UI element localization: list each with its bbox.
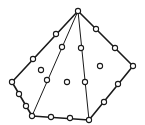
vertex-node	[86, 117, 91, 122]
vertex-node	[75, 8, 80, 13]
boundary-node	[112, 45, 117, 50]
boundary-node	[67, 115, 72, 120]
interior-node	[64, 79, 69, 84]
boundary-node	[48, 114, 53, 119]
outer-boundary	[12, 11, 133, 120]
inner-line-node	[82, 79, 87, 84]
vertex-node	[9, 79, 14, 84]
mesh-diagram	[0, 0, 145, 125]
vertex-node	[29, 113, 34, 118]
inner-line-node	[59, 44, 64, 49]
inner-line-node	[78, 45, 83, 50]
boundary-node	[16, 91, 21, 96]
boundary-node	[93, 26, 98, 31]
inner-divider-line-2	[78, 11, 89, 120]
inner-divider-line-1	[32, 11, 78, 116]
vertex-node	[130, 63, 135, 68]
interior-node	[38, 67, 43, 72]
boundary-node	[23, 103, 28, 108]
interior-node	[97, 63, 102, 68]
boundary-node	[53, 31, 58, 36]
boundary-node	[101, 99, 106, 104]
inner-line-node	[44, 77, 49, 82]
boundary-node	[115, 81, 120, 86]
mesh-edges	[12, 11, 133, 120]
boundary-node	[30, 56, 35, 61]
